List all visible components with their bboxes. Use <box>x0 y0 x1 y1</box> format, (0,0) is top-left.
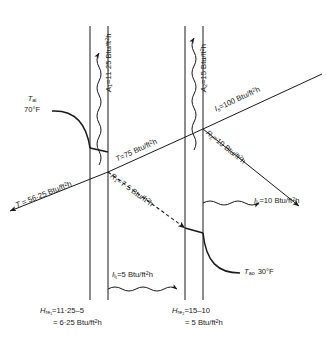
label-absorbed-a1-sup: 2 <box>104 38 110 41</box>
equation-hre2-rhs: =15–10 <box>184 306 210 315</box>
label-absorbed-a1: A1=11·25 Btu/ft2h <box>104 34 114 92</box>
label-absorbed-a2-sym: A <box>199 87 208 92</box>
loss-il1-wavy-arrow <box>108 287 177 291</box>
label-absorbed-a1-sym: A <box>104 87 113 92</box>
label-loss-il1: Il₁=5 Btu/ft2h <box>112 270 153 280</box>
inside-air-temp-curve <box>52 111 90 148</box>
equation-hre2-result: = 5 Btu/ft <box>185 318 216 327</box>
equation-hre1-line2: = 6·25 Btu/ft2h <box>53 318 102 328</box>
outside-air-temp-curve <box>203 233 240 273</box>
equation-hre2-line1: Hre₂=15–10 <box>172 306 223 316</box>
absorbed-a1-wavy-arrow <box>97 53 101 165</box>
label-temp-inside-value: 70°F <box>24 105 40 114</box>
label-temp-inside-sub: ai <box>32 97 36 103</box>
label-absorbed-a2-eq: =15 Btu/ft <box>199 51 208 84</box>
equation-hre1-result: = 6·25 Btu/ft <box>53 318 95 327</box>
label-absorbed-a1-eq: =11·25 Btu/ft <box>104 41 113 84</box>
label-temp-outside-value: 30°F <box>258 267 274 276</box>
equation-hre2-line2: = 5 Btu/ft2h <box>185 318 223 328</box>
label-loss-il2-tail: h <box>295 196 299 205</box>
label-absorbed-a2-sub: 2 <box>202 84 208 87</box>
label-absorbed-a1-sub: 1 <box>107 84 113 87</box>
label-absorbed-a1-tail: h <box>104 34 113 38</box>
label-absorbed-a2-tail: h <box>199 44 208 48</box>
label-absorbed-a2: A2=15 Btu/ft2h <box>199 44 209 92</box>
label-temp-inside: Tai 70°F <box>24 94 40 114</box>
equation-hre1-tail: h <box>98 318 102 327</box>
label-loss-il1-eq: =5 Btu/ft <box>117 270 146 279</box>
label-temp-outside: Tao30°F <box>244 267 274 277</box>
label-absorbed-a2-sup: 2 <box>199 48 205 51</box>
equation-hre1-line1: Hre₁=11·25–5 <box>40 306 102 316</box>
equation-hre1-rhs: =11·25–5 <box>52 306 84 315</box>
label-loss-il1-tail: h <box>149 270 153 279</box>
diagram-svg <box>0 0 326 342</box>
label-temp-inside-symbol-row: Tai <box>24 94 40 104</box>
loss-il2-wavy-arrow <box>203 201 259 205</box>
equation-hre2-tail: h <box>219 318 223 327</box>
equation-hre1: Hre₁=11·25–5 = 6·25 Btu/ft2h <box>40 306 102 327</box>
outer-pane-temp-segment <box>185 228 203 233</box>
equation-hre2: Hre₂=15–10 = 5 Btu/ft2h <box>172 306 223 327</box>
label-loss-il2-eq: =10 Btu/ft <box>259 196 292 205</box>
figure-canvas: A1=11·25 Btu/ft2h A2=15 Btu/ft2h Is=100 … <box>0 0 326 342</box>
label-temp-outside-sub: ao <box>249 270 255 276</box>
label-loss-il2: Il₂=10 Btu/ft2h <box>254 196 299 206</box>
